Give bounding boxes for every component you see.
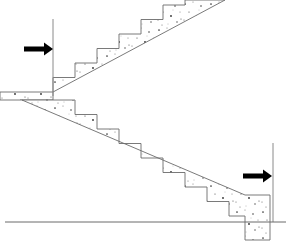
diagram-canvas xyxy=(0,0,293,251)
right-load-arrow xyxy=(243,170,272,183)
left-load-arrow xyxy=(24,43,53,56)
mid-landing-slab xyxy=(0,92,53,100)
staircase-diagram xyxy=(0,0,293,251)
lower-stair-flight xyxy=(22,100,270,240)
upper-stair-flight xyxy=(53,0,225,92)
